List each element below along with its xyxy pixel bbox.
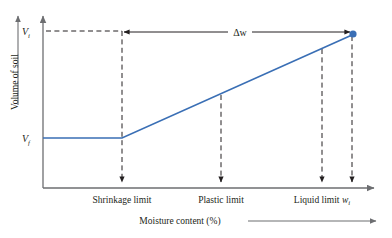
- soil-volume-vs-moisture-content-diagram: Vi Vf Δw Shrinkage limit Plastic limit L…: [0, 0, 392, 238]
- curve-endpoint-marker: [349, 30, 356, 37]
- x-axis-title: Moisture content (%): [139, 216, 220, 227]
- tick-label-liquid-limit: Liquid limit wi: [294, 195, 350, 206]
- y-label-vf: Vf: [22, 133, 31, 146]
- tick-label-plastic-limit: Plastic limit: [198, 195, 244, 205]
- volume-curve: [43, 30, 357, 138]
- y-axis-title: Volume of soil: [10, 54, 20, 110]
- delta-w-label: Δw: [233, 27, 247, 38]
- y-label-vi: Vi: [22, 26, 30, 39]
- tick-label-shrinkage-limit: Shrinkage limit: [93, 195, 152, 205]
